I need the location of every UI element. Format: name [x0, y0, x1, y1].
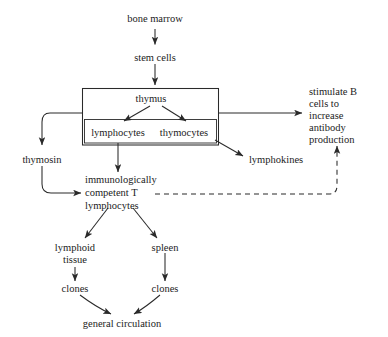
node-clones-left: clones	[62, 283, 89, 294]
node-stimulate-b-line-5: production	[309, 134, 355, 145]
node-stimulate-b-line-4: antibody	[309, 122, 346, 133]
node-lymphoid-tissue-line-1: lymphoid	[55, 242, 96, 253]
node-general-circulation: general circulation	[83, 318, 162, 329]
edge-thymus-to-lymphocytes	[124, 106, 150, 121]
node-thymosin: thymosin	[22, 154, 62, 165]
flowchart-diagram: bone marrow stem cells thymus lymphocyte…	[0, 0, 388, 337]
node-clones-right: clones	[152, 283, 179, 294]
node-lymphokines: lymphokines	[249, 154, 303, 165]
node-competent-t-line-2: competent T	[85, 187, 138, 198]
node-bone-marrow: bone marrow	[127, 13, 183, 24]
edge-competent-t-to-stimulate-b-feedback	[155, 146, 337, 194]
edge-clones-left-to-general-circulation	[80, 295, 111, 314]
edge-thymus-to-thymosin	[42, 113, 83, 145]
edge-thymus-to-lymphokines	[215, 140, 243, 156]
node-lymphoid-tissue-line-2: tissue	[63, 254, 87, 265]
node-thymocytes: thymocytes	[160, 127, 208, 138]
node-competent-t-line-3: lymphocytes	[85, 200, 139, 211]
edge-thymosin-to-competent-t	[42, 166, 81, 193]
edge-competent-t-to-spleen	[133, 208, 157, 238]
edge-thymus-to-thymocytes	[162, 106, 186, 121]
node-lymphocytes: lymphocytes	[91, 127, 145, 138]
node-thymus: thymus	[136, 93, 167, 104]
edge-competent-t-to-lymphoid-tissue	[85, 208, 108, 238]
edge-clones-right-to-general-circulation	[134, 295, 160, 314]
node-stimulate-b-line-3: increase	[309, 110, 344, 121]
node-competent-t-line-1: immunologically	[85, 174, 157, 185]
node-spleen: spleen	[152, 242, 180, 253]
node-stimulate-b-line-1: stimulate B	[309, 86, 357, 97]
node-stem-cells: stem cells	[134, 52, 176, 63]
flowchart-canvas: bone marrow stem cells thymus lymphocyte…	[0, 0, 388, 337]
node-stimulate-b-line-2: cells to	[309, 98, 339, 109]
